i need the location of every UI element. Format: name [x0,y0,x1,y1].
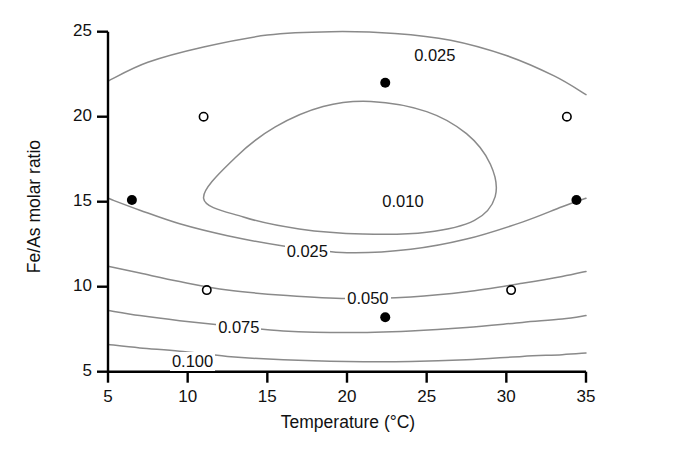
contour-line-0.025-upper [108,32,586,95]
y-tick-label-25: 25 [48,21,92,41]
data-point-filled [571,195,581,205]
y-tick-label-15: 15 [48,191,92,211]
x-axis-label: Temperature (°C) [0,412,696,433]
contour-label-0.100: 0.100 [170,352,215,371]
x-tick-label-30: 30 [481,387,531,407]
contour-label-0.050: 0.050 [345,289,390,308]
x-tick-label-5: 5 [83,387,133,407]
data-point-open [203,286,211,294]
y-tick-label-10: 10 [48,276,92,296]
y-tick-label-20: 20 [48,106,92,126]
contour-label-0.025-lower: 0.025 [285,242,330,261]
data-point-filled [380,78,390,88]
data-point-filled [127,195,137,205]
data-point-open [563,113,571,121]
contour-label-0.075: 0.075 [216,318,261,337]
y-axis-label: Fe/As molar ratio [24,77,45,337]
contour-plot-figure: 5101520253035510152025 0.0100.0250.0250.… [0,0,696,461]
x-tick-label-15: 15 [242,387,292,407]
axes-group [97,32,586,383]
x-tick-label-35: 35 [561,387,611,407]
data-point-open [199,113,207,121]
contour-line-0.025-lower [108,198,586,253]
y-tick-label-5: 5 [48,361,92,381]
contour-lines-group [108,32,586,362]
contour-line-0.075 [108,311,586,333]
contour-label-0.010: 0.010 [380,192,425,211]
contour-line-0.010 [204,101,497,234]
data-points-group [127,78,582,323]
x-tick-label-10: 10 [163,387,213,407]
data-point-filled [380,312,390,322]
contour-label-0.025-upper: 0.025 [412,46,457,65]
data-point-open [507,286,515,294]
x-tick-label-20: 20 [322,387,372,407]
x-tick-label-25: 25 [402,387,452,407]
